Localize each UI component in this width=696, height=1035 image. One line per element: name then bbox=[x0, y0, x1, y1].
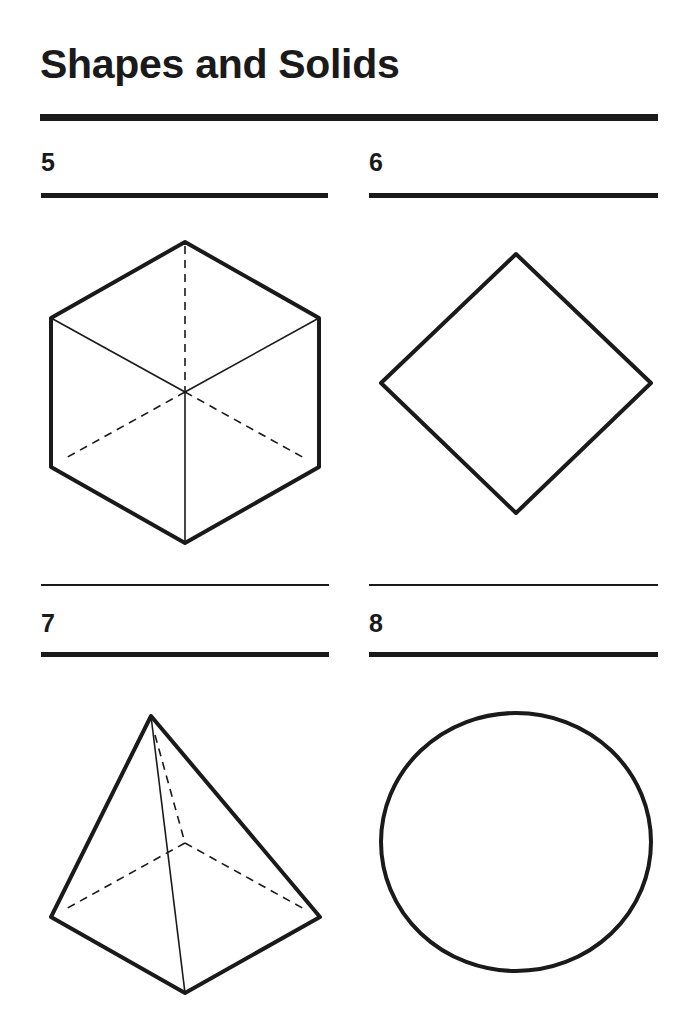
square-figure bbox=[381, 254, 651, 513]
cube-figure bbox=[51, 242, 319, 543]
circle-figure bbox=[381, 713, 651, 971]
pyramid-figure bbox=[51, 716, 320, 993]
figures-canvas bbox=[0, 0, 696, 1035]
